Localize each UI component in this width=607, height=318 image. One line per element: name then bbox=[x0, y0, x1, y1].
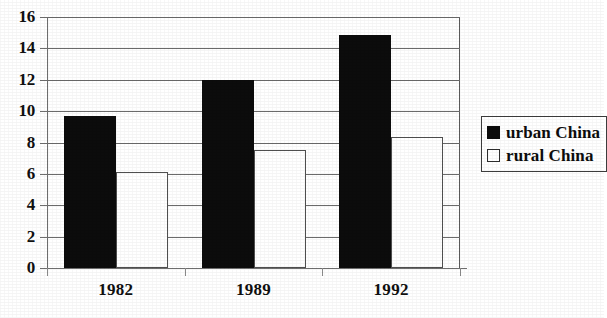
x-axis-label-1989: 1989 bbox=[185, 281, 323, 298]
y-tick-2 bbox=[40, 237, 48, 238]
y-tick-4 bbox=[40, 205, 48, 206]
legend-item-rural-china: rural China bbox=[487, 144, 600, 167]
x-tick-edge-1 bbox=[460, 268, 461, 276]
y-axis-label-10: 10 bbox=[5, 102, 35, 119]
y-axis-label-4: 4 bbox=[5, 196, 35, 213]
y-axis-label-12: 12 bbox=[5, 71, 35, 88]
gridline-12 bbox=[47, 80, 460, 81]
y-tick-6 bbox=[40, 174, 48, 175]
y-axis-label-0: 0 bbox=[5, 259, 35, 276]
x-axis-label-1992: 1992 bbox=[322, 281, 460, 298]
x-tick-edge-0 bbox=[47, 268, 48, 276]
gridline-14 bbox=[47, 48, 460, 49]
y-tick-10 bbox=[40, 111, 48, 112]
y-tick-8 bbox=[40, 143, 48, 144]
chart-legend: urban China rural China bbox=[481, 116, 607, 172]
y-axis-label-6: 6 bbox=[5, 165, 35, 182]
gridline-10 bbox=[47, 111, 460, 112]
legend-label-rural-china: rural China bbox=[506, 147, 594, 164]
x-tick-2 bbox=[322, 268, 323, 276]
y-axis-label-2: 2 bbox=[5, 228, 35, 245]
bar-rural-china-1992 bbox=[391, 137, 443, 268]
bar-rural-china-1982 bbox=[116, 172, 168, 268]
bar-urban-china-1992 bbox=[339, 35, 391, 268]
legend-swatch-filled-square-icon bbox=[487, 126, 500, 139]
x-axis-line bbox=[40, 268, 467, 269]
y-axis-label-14: 14 bbox=[5, 39, 35, 56]
y-axis-label-16: 16 bbox=[5, 8, 35, 25]
bar-urban-china-1989 bbox=[202, 80, 254, 268]
y-tick-12 bbox=[40, 80, 48, 81]
legend-item-urban-china: urban China bbox=[487, 121, 600, 144]
bar-rural-china-1989 bbox=[254, 150, 306, 268]
x-tick-1 bbox=[185, 268, 186, 276]
plot-area bbox=[47, 17, 460, 268]
y-axis-label-8: 8 bbox=[5, 134, 35, 151]
gridline-16 bbox=[47, 17, 460, 18]
bar-urban-china-1982 bbox=[64, 116, 116, 268]
y-tick-16 bbox=[40, 17, 48, 18]
y-tick-14 bbox=[40, 48, 48, 49]
legend-label-urban-china: urban China bbox=[506, 124, 600, 141]
x-axis-label-1982: 1982 bbox=[47, 281, 185, 298]
legend-swatch-hollow-square-icon bbox=[487, 149, 500, 162]
